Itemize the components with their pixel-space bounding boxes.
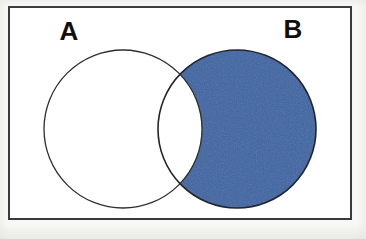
set-a-label: A: [60, 16, 79, 46]
venn-diagram-figure: A B: [0, 0, 366, 239]
set-b-label: B: [284, 14, 303, 44]
venn-diagram-canvas: A B: [0, 0, 366, 239]
